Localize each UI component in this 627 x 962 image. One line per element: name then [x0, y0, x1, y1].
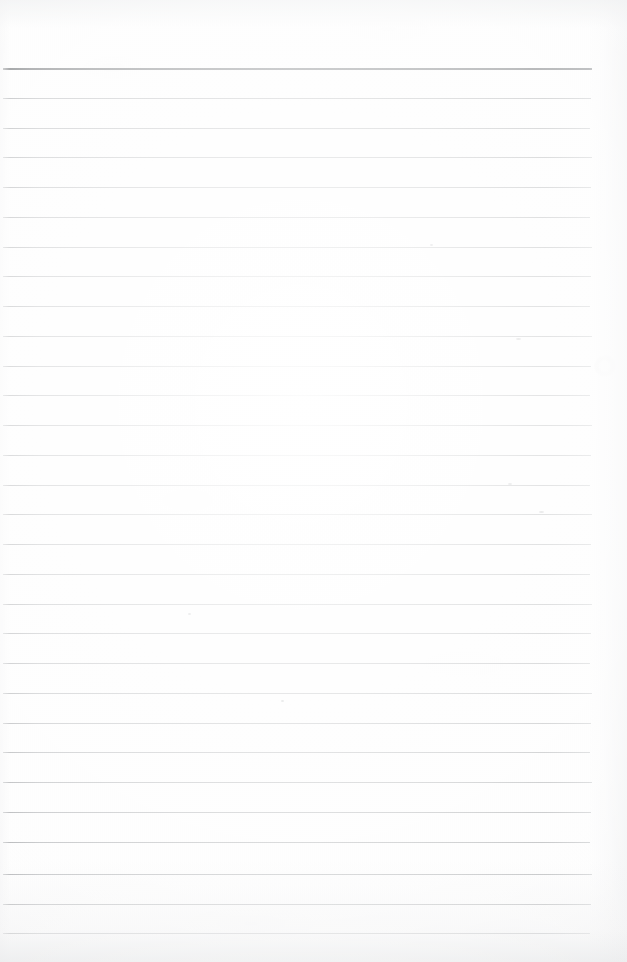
ruled-line	[3, 933, 590, 934]
scanned-page	[0, 0, 627, 962]
writing-area	[3, 70, 592, 933]
